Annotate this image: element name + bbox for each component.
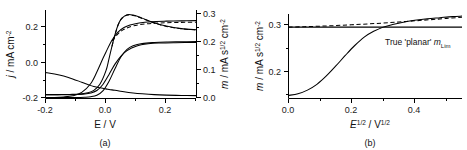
panel-a-ylabel-unit: / mA cm xyxy=(5,36,16,75)
panel-b-x-ticks: 0.0 0.2 0.4 xyxy=(282,99,447,116)
curve-measured-mass-sigmoid xyxy=(289,16,463,95)
panel-b-ylabel-exp-a: 1/2 xyxy=(254,43,261,52)
panel-b-ytick-1: 0.2 xyxy=(268,67,281,77)
panel-b-annotation-symbol: m xyxy=(434,37,441,47)
panel-b-xlabel-exp1: 1/2 xyxy=(357,119,366,126)
curve-mass-response-delayed xyxy=(46,42,197,98)
panel-a-yr-exp-a: 1/2 xyxy=(219,41,226,50)
panel-a-ytick-right-3: 0.0 xyxy=(203,93,216,103)
panel-b-annotation-subscript: Lim xyxy=(441,43,451,49)
panel-b-x-axis-label: E1/2 / V1/2 xyxy=(350,119,390,131)
panel-a-yr-unit-b: cm xyxy=(219,25,230,41)
panel-a-right-ticks: 0.3 0.2 0.1 0.0 xyxy=(197,9,216,103)
panel-a-x-ticks: -0.2 0.0 0.2 xyxy=(37,99,195,116)
panel-b-y-axis-label: m / mA s1/2 cm-2 xyxy=(254,21,266,91)
panel-a-x-axis-label: E / V xyxy=(94,119,116,130)
panel-b: 0.3 0.2 0.0 0.2 0.4 E1/2 / V1/2 m / mA s… xyxy=(254,14,463,148)
panel-b-ylabel-symbol: m xyxy=(254,83,265,91)
panel-a-ytick-2: -0.2 xyxy=(22,93,38,103)
panel-b-ylabel-exp-b: -2 xyxy=(254,21,261,27)
panel-a-ytick-right-1: 0.2 xyxy=(203,37,216,47)
panel-b-ylabel-unit-b: cm xyxy=(254,27,265,43)
curve-mass-response-rising-dashed xyxy=(112,22,197,41)
curve-mass-response-rising xyxy=(46,21,197,98)
svg-text:m / mA s1/2 cm-2: m / mA s1/2 cm-2 xyxy=(254,21,266,91)
panel-a-ytick-0: 0.2 xyxy=(25,22,38,32)
panel-a-ytick-right-2: 0.1 xyxy=(203,65,216,75)
panel-a-y-axis-right-label: m / mA s1/2 cm-2 xyxy=(219,19,231,89)
panel-a-yr-exp-b: -2 xyxy=(219,19,226,25)
panel-b-xtick-1: 0.2 xyxy=(345,105,358,115)
panel-a-caption: (a) xyxy=(100,138,111,148)
panel-a-ytick-1: 0.0 xyxy=(25,58,38,68)
panel-b-xlabel-mid: / V xyxy=(366,119,381,130)
panel-b-xtick-2: 0.4 xyxy=(408,105,421,115)
panel-b-ytick-0: 0.3 xyxy=(268,20,281,30)
svg-text:m / mA s1/2 cm-2: m / mA s1/2 cm-2 xyxy=(219,19,231,89)
panel-a-curves xyxy=(46,14,197,97)
panel-a-y-axis-left-label: j / mA cm-2 xyxy=(5,30,17,79)
panel-b-ylabel-unit-a: / mA s xyxy=(254,52,265,83)
panel-a-yr-symbol: m xyxy=(219,81,230,89)
curve-steady-state-sigmoid xyxy=(46,73,197,96)
curve-cv-reverse-branch xyxy=(46,42,197,94)
panel-b-y-ticks: 0.3 0.2 xyxy=(268,20,288,95)
panel-b-caption: (b) xyxy=(365,138,376,148)
panel-b-xlabel-exp2: 1/2 xyxy=(381,119,390,126)
panel-a-yr-unit-a: / mA s xyxy=(219,50,230,81)
figure-container: 0.2 0.0 -0.2 0.3 0.2 0.1 0.0 -0.2 xyxy=(0,0,467,150)
curve-apparent-limit-dashed xyxy=(289,17,463,27)
panel-b-annotation: True 'planar' mLim xyxy=(385,37,451,49)
curve-cv-forward-peak xyxy=(46,14,197,94)
panel-a-xtick-0: -0.2 xyxy=(37,105,53,115)
panel-a-left-ticks: 0.2 0.0 -0.2 xyxy=(22,22,45,103)
panel-b-annotation-text: True 'planar' xyxy=(385,37,434,47)
panel-a-xtick-2: 0.2 xyxy=(159,105,172,115)
panel-a: 0.2 0.0 -0.2 0.3 0.2 0.1 0.0 -0.2 xyxy=(5,9,231,148)
panel-a-ytick-right-0: 0.3 xyxy=(203,9,216,19)
figure-svg: 0.2 0.0 -0.2 0.3 0.2 0.1 0.0 -0.2 xyxy=(0,0,467,150)
panel-b-xtick-0: 0.0 xyxy=(282,105,295,115)
svg-text:j / mA cm-2: j / mA cm-2 xyxy=(5,30,17,79)
panel-b-curves xyxy=(289,16,463,95)
panel-a-ylabel-exp: -2 xyxy=(5,30,12,36)
panel-a-xtick-1: 0.0 xyxy=(99,105,112,115)
